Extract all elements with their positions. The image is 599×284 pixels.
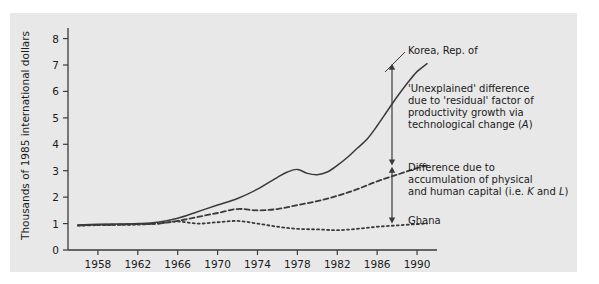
y-tick-label: 1: [52, 218, 59, 230]
chart-figure: Thousands of 1985 international dollars …: [0, 0, 599, 284]
y-tick-label: 7: [52, 59, 59, 71]
y-tick-label: 0: [52, 244, 59, 256]
x-tick-label: 1978: [284, 258, 311, 270]
y-tick-label: 4: [52, 138, 59, 150]
capital-line-2: accumulation of physical: [408, 174, 533, 185]
capital-accumulation-note: Difference due to accumulation of physic…: [408, 162, 569, 197]
x-tick-label: 1966: [164, 258, 191, 270]
series-line-dashed: [78, 165, 427, 225]
series-line-solid: [78, 64, 427, 225]
y-tick-label: 3: [52, 165, 59, 177]
x-tick-label: 1990: [404, 258, 431, 270]
annotation-arrow-group: [389, 64, 395, 224]
capital-line-3: and human capital (i.e. K and L): [408, 186, 569, 197]
y-tick-label: 6: [52, 85, 59, 97]
unexplained-line-1: 'Unexplained' difference: [408, 83, 529, 94]
x-tick-group: 195819621966197019741978198219861990: [85, 250, 431, 270]
x-tick-label: 1982: [324, 258, 351, 270]
y-tick-group: 012345678: [52, 33, 68, 256]
data-series-group: [78, 64, 427, 231]
x-tick-label: 1974: [244, 258, 271, 270]
unexplained-line-4: technological change (A): [408, 119, 533, 130]
y-tick-label: 5: [52, 112, 59, 124]
arrow-head-top: [389, 167, 395, 173]
y-tick-label: 2: [52, 191, 59, 203]
unexplained-difference-arrow: [389, 64, 395, 166]
ghana-series-label: Ghana: [408, 215, 441, 226]
series-line-dotted: [78, 221, 427, 230]
korea-leader-line: [385, 52, 405, 72]
unexplained-line-2: due to 'residual' factor of: [408, 95, 534, 106]
chart-axes: [68, 28, 437, 250]
x-tick-label: 1986: [364, 258, 391, 270]
y-axis-title: Thousands of 1985 international dollars: [19, 31, 31, 241]
x-tick-label: 1958: [85, 258, 112, 270]
korea-series-label: Korea, Rep. of: [408, 45, 478, 56]
x-tick-label: 1962: [124, 258, 151, 270]
capital-line-1: Difference due to: [408, 162, 495, 173]
y-tick-label: 8: [52, 33, 59, 45]
arrow-head-bottom: [389, 218, 395, 224]
chart-svg: Thousands of 1985 international dollars …: [0, 0, 599, 284]
unexplained-line-3: productivity growth via: [408, 107, 524, 118]
unexplained-difference-note: 'Unexplained' difference due to 'residua…: [408, 83, 534, 130]
arrow-head-bottom: [389, 159, 395, 165]
x-tick-label: 1970: [204, 258, 231, 270]
